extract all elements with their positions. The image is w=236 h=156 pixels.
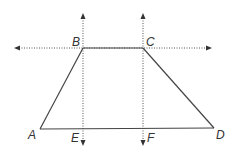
segment-cd (143, 48, 214, 128)
arrow-down-icon (141, 140, 146, 146)
label-f: F (147, 131, 155, 145)
arrow-left-icon (14, 46, 20, 51)
label-d: D (216, 128, 225, 142)
arrow-down-icon (81, 140, 86, 146)
arrow-up-icon (81, 13, 86, 19)
label-a: A (27, 128, 36, 142)
trapezoid-diagram: B C A E F D (0, 0, 236, 156)
label-b: B (72, 35, 80, 49)
label-e: E (71, 131, 80, 145)
arrow-right-icon (206, 46, 212, 51)
segment-ab (40, 48, 83, 129)
arrow-up-icon (141, 13, 146, 19)
segment-ad (40, 128, 214, 129)
label-c: C (146, 35, 155, 49)
